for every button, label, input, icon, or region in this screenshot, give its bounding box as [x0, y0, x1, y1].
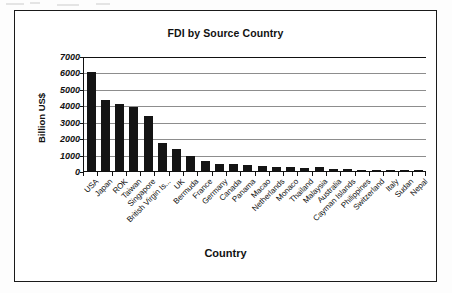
- bar: [101, 100, 110, 171]
- x-tick-slot: [212, 172, 226, 176]
- x-tick-mark: [283, 172, 284, 176]
- bar-slot: [284, 57, 298, 171]
- x-tick-mark: [240, 172, 241, 176]
- y-tick-label: 3000: [60, 118, 80, 127]
- bar: [258, 166, 267, 171]
- bar-slot: [255, 57, 269, 171]
- x-tick-mark: [340, 172, 341, 176]
- x-tick-slot: [140, 172, 154, 176]
- y-axis-ticks: 70006000500040003000200010000: [51, 57, 83, 172]
- x-tick-mark: [112, 172, 113, 176]
- x-tick-mark: [355, 172, 356, 176]
- bar: [115, 104, 124, 171]
- bar: [172, 149, 181, 171]
- y-tick-label: 1000: [60, 151, 80, 160]
- y-axis-title: Billion US$: [34, 63, 48, 173]
- y-tick-label: 2000: [60, 135, 80, 144]
- x-tick-mark: [383, 172, 384, 176]
- x-tick-mark: [412, 172, 413, 176]
- x-tick-slot: [326, 172, 340, 176]
- bar: [272, 167, 281, 171]
- x-axis-title: Country: [15, 247, 436, 259]
- bar-slot: [184, 57, 198, 171]
- y-tick-label: 6000: [60, 69, 80, 78]
- scanned-page: FDI by Source Country Billion US$ 700060…: [0, 0, 452, 293]
- x-tick-mark: [312, 172, 313, 176]
- bar: [215, 164, 224, 171]
- bar: [286, 167, 295, 171]
- bar-slot: [170, 57, 184, 171]
- bar-slot: [113, 57, 127, 171]
- x-tick-slot: [355, 172, 369, 176]
- x-tick-slot: [97, 172, 111, 176]
- x-tick-mark: [326, 172, 327, 176]
- bar-slot: [141, 57, 155, 171]
- x-tick-slot: [183, 172, 197, 176]
- y-tick-label: 5000: [60, 85, 80, 94]
- x-axis-ticks: [83, 172, 426, 176]
- scan-artifact: [96, 3, 110, 5]
- bar-slot: [84, 57, 98, 171]
- x-tick-slot: [269, 172, 283, 176]
- bar-slot: [412, 57, 426, 171]
- bar: [329, 169, 338, 171]
- bar-slot: [227, 57, 241, 171]
- bar: [343, 169, 352, 171]
- bar-series: [84, 57, 426, 171]
- x-tick-slot: [297, 172, 311, 176]
- x-tick-mark: [97, 172, 98, 176]
- bar-slot: [312, 57, 326, 171]
- x-tick-slot: [83, 172, 97, 176]
- bar: [87, 72, 96, 171]
- bar-slot: [212, 57, 226, 171]
- scan-artifact: [6, 3, 24, 5]
- x-tick-slot: [340, 172, 354, 176]
- bar-slot: [269, 57, 283, 171]
- y-tick-label: 7000: [60, 53, 80, 62]
- bar: [300, 168, 309, 171]
- scan-artifact: [57, 4, 79, 6]
- x-tick-slot: [126, 172, 140, 176]
- x-tick-mark: [183, 172, 184, 176]
- bar-slot: [155, 57, 169, 171]
- bar: [386, 170, 395, 171]
- x-tick-mark: [126, 172, 127, 176]
- x-tick-mark: [297, 172, 298, 176]
- bar: [414, 170, 423, 171]
- x-tick-mark: [425, 172, 426, 176]
- x-tick-slot: [112, 172, 126, 176]
- bar: [357, 170, 366, 171]
- bar-slot: [355, 57, 369, 171]
- x-tick-mark: [197, 172, 198, 176]
- bar: [372, 170, 381, 171]
- x-tick-slot: [369, 172, 383, 176]
- x-tick-slot: [169, 172, 183, 176]
- bar-slot: [398, 57, 412, 171]
- bar: [201, 161, 210, 171]
- bar: [186, 156, 195, 171]
- x-tick-slot: [226, 172, 240, 176]
- bar-slot: [127, 57, 141, 171]
- x-tick-slot: [383, 172, 397, 176]
- chart-title: FDI by Source Country: [15, 27, 436, 39]
- x-tick-mark: [369, 172, 370, 176]
- bar-slot: [198, 57, 212, 171]
- x-tick-mark: [212, 172, 213, 176]
- bar: [229, 164, 238, 171]
- bar: [158, 143, 167, 171]
- x-tick-mark: [140, 172, 141, 176]
- x-axis-category-labels: USAJapanROKTaiwanSingaporeBritish Virgin…: [83, 177, 452, 239]
- x-tick-slot: [255, 172, 269, 176]
- x-tick-mark: [154, 172, 155, 176]
- x-tick-slot: [283, 172, 297, 176]
- bar-slot: [383, 57, 397, 171]
- x-tick-slot: [412, 172, 426, 176]
- bar: [129, 107, 138, 171]
- plot-area: [83, 57, 426, 172]
- bar: [315, 167, 324, 171]
- x-tick-slot: [312, 172, 326, 176]
- bar-slot: [298, 57, 312, 171]
- bar-slot: [98, 57, 112, 171]
- bar: [400, 170, 409, 171]
- x-tick-mark: [83, 172, 84, 176]
